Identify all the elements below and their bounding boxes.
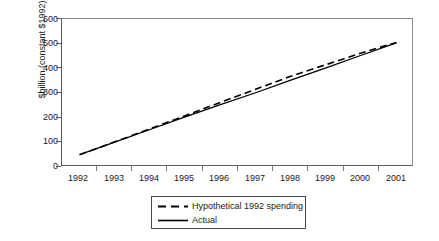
chart-legend: Hypothetical 1992 spending Actual xyxy=(151,196,306,229)
legend-label-hypothetical: Hypothetical 1992 spending xyxy=(192,200,303,212)
y-tick-label-400: 400 xyxy=(20,64,58,73)
legend-solid-line-icon xyxy=(158,219,188,222)
legend-dashed-line-icon xyxy=(158,205,188,208)
legend-item-hypothetical: Hypothetical 1992 spending xyxy=(152,199,307,213)
legend-item-actual: Actual xyxy=(152,213,307,227)
y-tick-label-100: 100 xyxy=(20,137,58,146)
y-tick-mark-0 xyxy=(56,166,61,167)
plot-area xyxy=(61,18,413,166)
y-tick-label-600: 600 xyxy=(20,15,58,24)
y-tick-label-300: 300 xyxy=(20,88,58,97)
y-tick-label-200: 200 xyxy=(20,113,58,122)
legend-label-actual: Actual xyxy=(192,214,217,226)
y-tick-label-500: 500 xyxy=(20,39,58,48)
y-axis-tick-labels: 600 500 400 300 200 100 0 xyxy=(20,0,58,241)
x-tick-label-2001: 2001 xyxy=(374,173,418,183)
y-tick-label-0: 0 xyxy=(20,162,58,171)
series-canvas xyxy=(62,19,414,167)
line-chart-figure: $billion (constant $1992) 600 500 400 30… xyxy=(0,0,439,241)
series-line-actual xyxy=(80,43,397,155)
